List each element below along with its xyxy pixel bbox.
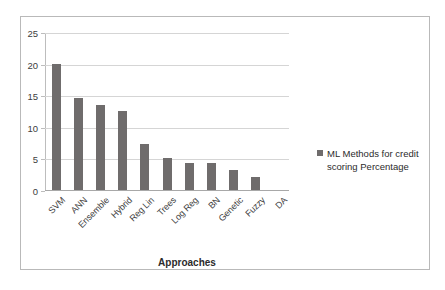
y-tick-label: 10 [27, 122, 38, 133]
chart-frame: 0510152025 SVMANNEnsembleHybridReg LinTr… [20, 16, 430, 270]
plot-area: 0510152025 SVMANNEnsembleHybridReg LinTr… [45, 33, 289, 191]
bar [118, 111, 127, 190]
bar [229, 170, 238, 190]
gridline [45, 33, 289, 34]
y-tick-mark [41, 96, 45, 97]
y-tick-label: 0 [33, 186, 38, 197]
legend: ML Methods for credit scoring Percentage [317, 147, 445, 173]
y-tick-mark [41, 128, 45, 129]
y-tick-label: 25 [27, 28, 38, 39]
bar [96, 105, 105, 190]
y-tick-label: 15 [27, 91, 38, 102]
legend-label: ML Methods for credit scoring Percentage [327, 147, 445, 173]
bar [52, 64, 61, 190]
x-tick-label: Fuzzy [243, 195, 267, 219]
y-tick-label: 5 [33, 154, 38, 165]
y-axis-line [45, 33, 46, 191]
legend-swatch-icon [317, 150, 323, 156]
gridline [45, 65, 289, 66]
bar [251, 177, 260, 190]
y-tick-mark [41, 191, 45, 192]
y-tick-mark [41, 159, 45, 160]
bar [163, 158, 172, 190]
y-tick-mark [41, 33, 45, 34]
bar [74, 98, 83, 190]
bar [207, 163, 216, 190]
legend-label-line-1: ML Methods for credit [327, 148, 419, 159]
bar [185, 163, 194, 190]
x-axis-title: Approaches [65, 257, 309, 268]
x-axis-line [45, 190, 289, 191]
bar [140, 144, 149, 190]
x-tick-label: DA [273, 195, 289, 211]
x-tick-label: Genetic [216, 195, 245, 224]
x-tick-label: SVM [46, 195, 67, 216]
y-tick-mark [41, 65, 45, 66]
legend-label-line-2: scoring Percentage [327, 161, 409, 172]
x-tick-label: BN [207, 195, 223, 211]
y-tick-label: 20 [27, 59, 38, 70]
